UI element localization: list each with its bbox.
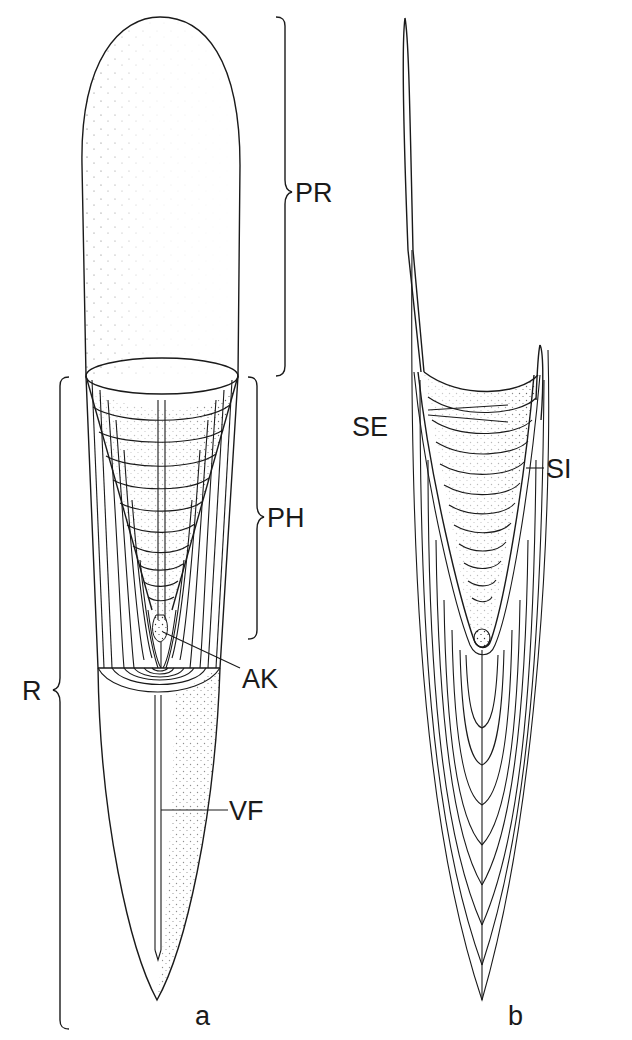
label-ak: AK	[242, 664, 278, 694]
bracket-r	[53, 377, 69, 1029]
proostracum-spine	[403, 18, 424, 372]
label-pr: PR	[295, 178, 333, 208]
label-vf: VF	[229, 796, 264, 826]
bracket-pr	[276, 17, 292, 376]
label-se: SE	[352, 412, 388, 442]
label-si: SI	[546, 454, 572, 484]
belemnite-diagram: PR PH R AK VF a	[0, 0, 632, 1040]
panel-a	[82, 17, 240, 1000]
label-r: R	[22, 676, 42, 706]
label-ph: PH	[267, 503, 305, 533]
lower-rostrum	[155, 668, 220, 1000]
bracket-ph	[248, 377, 264, 639]
proostracum	[82, 17, 240, 376]
panel-label-a: a	[195, 1001, 211, 1031]
panel-b	[403, 18, 548, 1000]
panel-label-b: b	[508, 1001, 523, 1031]
